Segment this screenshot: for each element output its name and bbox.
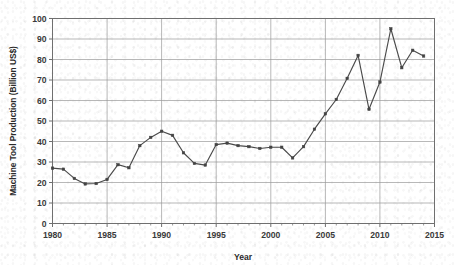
data-point-marker <box>259 147 262 150</box>
y-tick-label: 20 <box>37 178 47 188</box>
data-point-marker <box>84 183 87 186</box>
x-tick-label: 2005 <box>316 230 335 240</box>
y-tick-label: 80 <box>37 55 47 65</box>
data-point-marker <box>171 134 174 137</box>
data-point-marker <box>139 144 142 147</box>
y-tick-label: 0 <box>42 219 47 229</box>
x-tick-label: 1990 <box>152 230 171 240</box>
y-tick-label: 90 <box>37 34 47 44</box>
data-point-marker <box>226 142 229 145</box>
production-line <box>53 29 424 184</box>
x-tick-label: 2015 <box>425 230 444 240</box>
data-point-marker <box>291 157 294 160</box>
data-point-marker <box>422 55 425 58</box>
y-tick-label: 50 <box>37 116 47 126</box>
y-tick-label: 30 <box>37 157 47 167</box>
x-tick-label: 1985 <box>98 230 117 240</box>
data-point-marker <box>193 162 196 165</box>
data-point-marker <box>302 145 305 148</box>
data-point-marker <box>280 146 283 149</box>
data-point-marker <box>160 130 163 133</box>
data-point-marker <box>106 178 109 181</box>
y-tick-label: 100 <box>32 14 47 24</box>
data-point-marker <box>117 163 120 166</box>
horizontal-gridlines <box>53 39 435 203</box>
data-point-marker <box>270 146 273 149</box>
x-tick-label: 2010 <box>370 230 389 240</box>
chart-canvas: Machine Tool Production (Billion US$) Ye… <box>0 0 454 265</box>
data-point-marker <box>215 143 218 146</box>
data-point-marker <box>357 54 360 57</box>
data-point-marker <box>204 164 207 167</box>
data-point-marker <box>237 144 240 147</box>
x-axis-tick-marks <box>53 224 435 228</box>
y-axis-tick-marks <box>49 19 53 224</box>
x-tick-label: 2000 <box>261 230 280 240</box>
data-point-marker <box>149 136 152 139</box>
data-point-marker <box>95 182 98 185</box>
x-tick-label: 1995 <box>207 230 226 240</box>
y-axis-title: Machine Tool Production (Billion US$) <box>8 46 18 196</box>
machine-tool-production-line-chart: Machine Tool Production (Billion US$) Ye… <box>0 0 454 265</box>
data-point-marker <box>379 81 382 84</box>
y-tick-label: 60 <box>37 96 47 106</box>
data-point-marker <box>248 145 251 148</box>
x-tick-label: 1980 <box>43 230 62 240</box>
y-axis-tick-labels: 0102030405060708090100 <box>32 14 47 229</box>
x-axis-tick-labels: 19801985199019952000200520102015 <box>43 230 444 240</box>
data-point-marker <box>324 113 327 116</box>
data-point-marker <box>182 152 185 155</box>
data-point-marker <box>390 28 393 31</box>
data-point-marker <box>62 168 65 171</box>
data-point-marker <box>411 49 414 52</box>
data-point-marker <box>368 108 371 111</box>
data-point-marker <box>128 166 130 169</box>
data-point-marker <box>401 66 404 69</box>
data-point-marker <box>313 128 316 131</box>
data-point-marker <box>73 177 76 180</box>
x-axis-title: Year <box>234 252 253 262</box>
y-tick-label: 10 <box>37 198 47 208</box>
data-point-marker <box>335 98 338 101</box>
data-point-marker <box>346 77 349 80</box>
data-point-marker <box>51 167 54 170</box>
y-tick-label: 40 <box>37 137 47 147</box>
y-tick-label: 70 <box>37 75 47 85</box>
